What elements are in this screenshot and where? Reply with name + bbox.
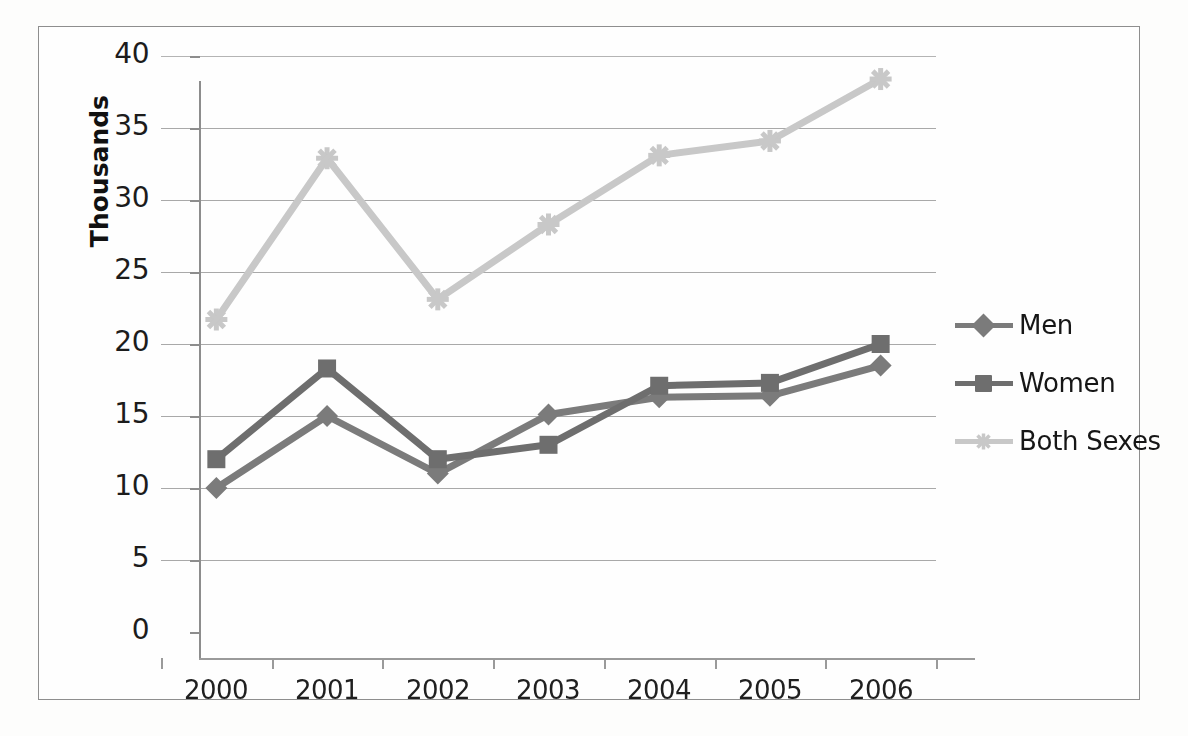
datapoint-both-sexes-2006 bbox=[870, 68, 892, 90]
datapoint-women-2000 bbox=[207, 450, 225, 468]
legend-label: Both Sexes bbox=[1019, 426, 1161, 456]
series-both-sexes bbox=[205, 68, 891, 330]
datapoint-women-2002 bbox=[429, 450, 447, 468]
datapoint-women-2001 bbox=[318, 359, 336, 377]
legend-label: Women bbox=[1019, 368, 1115, 398]
datapoint-both-sexes-2004 bbox=[648, 144, 670, 166]
datapoint-both-sexes-2000 bbox=[205, 309, 227, 331]
legend-swatch-square-icon bbox=[955, 373, 1013, 393]
datapoint-both-sexes-2005 bbox=[759, 130, 781, 152]
datapoint-both-sexes-2001 bbox=[316, 147, 338, 169]
datapoint-women-2003 bbox=[540, 436, 558, 454]
datapoint-women-2006 bbox=[872, 335, 890, 353]
legend-item-women[interactable]: Women bbox=[955, 354, 1135, 412]
series-line-both-sexes bbox=[216, 79, 880, 319]
chart-legend: MenWomenBoth Sexes bbox=[955, 296, 1135, 470]
datapoint-women-2004 bbox=[650, 377, 668, 395]
legend-item-both-sexes[interactable]: Both Sexes bbox=[955, 412, 1135, 470]
legend-item-men[interactable]: Men bbox=[955, 296, 1135, 354]
legend-swatch-diamond-icon bbox=[955, 315, 1013, 335]
datapoint-women-2005 bbox=[761, 374, 779, 392]
series-line-men bbox=[216, 366, 880, 488]
series-women bbox=[207, 335, 889, 468]
legend-swatch-star-icon bbox=[955, 431, 1013, 451]
legend-label: Men bbox=[1019, 310, 1073, 340]
datapoint-both-sexes-2002 bbox=[427, 288, 449, 310]
datapoint-both-sexes-2003 bbox=[538, 213, 560, 235]
datapoint-men-2006 bbox=[870, 355, 892, 377]
